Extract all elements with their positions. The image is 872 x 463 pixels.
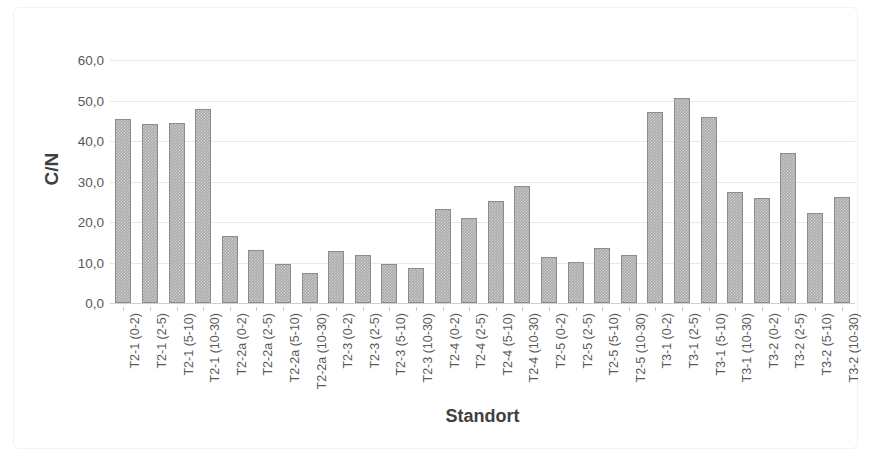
- bar[interactable]: [302, 273, 318, 303]
- x-tick-label: T2-2a (10-30): [315, 313, 329, 389]
- y-tick-label: 40,0: [44, 134, 104, 149]
- bar[interactable]: [435, 209, 451, 303]
- bar[interactable]: [754, 198, 770, 303]
- x-tick-label: T2-2a (5-10): [288, 313, 302, 382]
- x-tick-label: T2-2a (2-5): [261, 313, 275, 376]
- x-tick-mark: [629, 307, 630, 311]
- x-tick-mark: [256, 307, 257, 311]
- x-tick-mark: [177, 307, 178, 311]
- x-tick-mark: [576, 307, 577, 311]
- x-tick-mark: [363, 307, 364, 311]
- bar[interactable]: [621, 255, 637, 303]
- bar[interactable]: [807, 213, 823, 303]
- x-tick-mark: [389, 307, 390, 311]
- x-tick-mark: [735, 307, 736, 311]
- bar[interactable]: [461, 218, 477, 303]
- x-tick-mark: [842, 307, 843, 311]
- x-tick-label: T2-3 (2-5): [368, 313, 382, 369]
- x-tick-label: T2-3 (10-30): [421, 313, 435, 382]
- x-tick-label: T2-3 (0-2): [341, 313, 355, 369]
- x-tick-mark: [283, 307, 284, 311]
- x-tick-mark: [655, 307, 656, 311]
- y-axis-tick-labels: 0,010,020,030,040,050,060,0: [36, 60, 104, 303]
- y-tick-label: 20,0: [44, 215, 104, 230]
- x-tick-mark: [522, 307, 523, 311]
- x-axis-tick-labels: T2-1 (0-2)T2-1 (2-5)T2-1 (5-10)T2-1 (10-…: [110, 307, 855, 403]
- bar[interactable]: [381, 264, 397, 303]
- bar[interactable]: [488, 201, 504, 303]
- x-tick-mark: [416, 307, 417, 311]
- x-tick-mark: [230, 307, 231, 311]
- x-tick-mark: [602, 307, 603, 311]
- bar[interactable]: [115, 119, 131, 303]
- x-tick-mark: [496, 307, 497, 311]
- x-tick-mark: [762, 307, 763, 311]
- chart-frame: C/N 0,010,020,030,040,050,060,0 T2-1 (0-…: [13, 7, 858, 449]
- x-tick-mark: [203, 307, 204, 311]
- bar[interactable]: [355, 255, 371, 303]
- x-tick-label: T3-2 (2-5): [793, 313, 807, 369]
- plot-area: [110, 60, 855, 303]
- y-tick-label: 60,0: [44, 53, 104, 68]
- x-axis-title: Standort: [110, 406, 855, 427]
- x-axis-line: [110, 303, 855, 304]
- x-tick-label: T2-5 (2-5): [581, 313, 595, 369]
- bar[interactable]: [169, 123, 185, 303]
- bar[interactable]: [541, 257, 557, 303]
- x-tick-label: T2-1 (10-30): [208, 313, 222, 382]
- x-tick-label: T2-1 (2-5): [155, 313, 169, 369]
- x-tick-mark: [336, 307, 337, 311]
- bar[interactable]: [834, 197, 850, 303]
- bar[interactable]: [701, 117, 717, 303]
- x-tick-label: T3-2 (10-30): [847, 313, 861, 382]
- x-tick-label: T2-4 (10-30): [527, 313, 541, 382]
- x-tick-label: T2-5 (5-10): [607, 313, 621, 376]
- bar[interactable]: [408, 268, 424, 303]
- x-tick-label: T2-5 (10-30): [634, 313, 648, 382]
- x-tick-mark: [709, 307, 710, 311]
- x-tick-mark: [443, 307, 444, 311]
- bar[interactable]: [275, 264, 291, 303]
- x-tick-label: T3-1 (5-10): [714, 313, 728, 376]
- bar[interactable]: [328, 251, 344, 303]
- x-tick-mark: [469, 307, 470, 311]
- bar[interactable]: [594, 248, 610, 303]
- x-tick-label: T3-1 (2-5): [687, 313, 701, 369]
- x-tick-mark: [123, 307, 124, 311]
- x-tick-mark: [150, 307, 151, 311]
- x-tick-mark: [310, 307, 311, 311]
- x-tick-label: T2-4 (2-5): [474, 313, 488, 369]
- bar[interactable]: [514, 186, 530, 303]
- x-tick-mark: [788, 307, 789, 311]
- y-tick-label: 10,0: [44, 255, 104, 270]
- bar[interactable]: [780, 153, 796, 303]
- bar[interactable]: [222, 236, 238, 303]
- bar[interactable]: [195, 109, 211, 303]
- y-tick-label: 0,0: [44, 296, 104, 311]
- x-tick-label: T2-3 (5-10): [394, 313, 408, 376]
- bar[interactable]: [568, 262, 584, 303]
- x-tick-label: T3-1 (0-2): [660, 313, 674, 369]
- bar[interactable]: [142, 124, 158, 303]
- x-tick-label: T3-2 (0-2): [767, 313, 781, 369]
- bar[interactable]: [248, 250, 264, 303]
- x-tick-mark: [549, 307, 550, 311]
- x-tick-label: T3-2 (5-10): [820, 313, 834, 376]
- x-tick-label: T2-4 (5-10): [501, 313, 515, 376]
- x-tick-label: T3-1 (10-30): [740, 313, 754, 382]
- x-tick-label: T2-5 (0-2): [554, 313, 568, 369]
- y-tick-label: 50,0: [44, 93, 104, 108]
- bar[interactable]: [727, 192, 743, 303]
- x-tick-label: T2-4 (0-2): [448, 313, 462, 369]
- bar[interactable]: [674, 98, 690, 303]
- y-tick-label: 30,0: [44, 174, 104, 189]
- x-tick-mark: [815, 307, 816, 311]
- x-tick-label: T2-2a (0-2): [235, 313, 249, 376]
- x-tick-label: T2-1 (5-10): [182, 313, 196, 376]
- x-tick-mark: [682, 307, 683, 311]
- x-tick-label: T2-1 (0-2): [128, 313, 142, 369]
- bar[interactable]: [647, 112, 663, 303]
- bar-series: [110, 60, 855, 303]
